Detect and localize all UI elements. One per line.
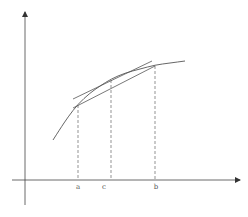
point-label-b: b — [154, 184, 158, 191]
point-label-a: a — [76, 184, 80, 191]
tangent-line — [73, 61, 152, 99]
point-label-c: c — [102, 184, 106, 191]
secant-line — [73, 66, 155, 108]
mean-value-theorem-diagram — [0, 0, 248, 217]
function-curve — [53, 61, 185, 140]
